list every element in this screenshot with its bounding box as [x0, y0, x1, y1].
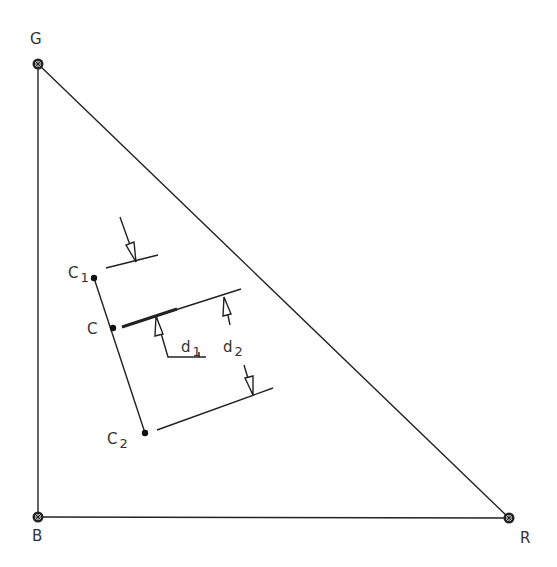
- point-c1-dot: [91, 275, 97, 281]
- arrow-d1-head-icon: [155, 316, 163, 336]
- vertex-b-marker-icon: [33, 512, 44, 523]
- vertex-g-label: G: [30, 32, 42, 47]
- vertex-r-marker-icon: [504, 513, 515, 524]
- line-c1: [106, 255, 158, 268]
- arrow-d2-down-head-icon: [245, 376, 253, 395]
- arrow-d2-up-head-icon: [223, 297, 231, 316]
- point-c2-label: C2: [107, 432, 128, 447]
- vertex-g-marker-icon: [33, 59, 44, 70]
- dimension-d2-label: d2: [223, 340, 243, 355]
- edge-b-r: [38, 517, 509, 518]
- point-c2-dot: [142, 430, 148, 436]
- vertex-b-label: B: [32, 529, 42, 544]
- dimension-d1-label: d1: [181, 340, 201, 355]
- point-c-dot: [110, 325, 116, 331]
- arrow-c1-head-icon: [126, 242, 136, 262]
- line-c2: [157, 388, 273, 430]
- edge-g-r: [38, 64, 509, 518]
- point-c1-label: C1: [68, 266, 89, 281]
- segment-c1-c2: [94, 278, 145, 433]
- vertex-r-label: R: [520, 531, 530, 546]
- point-c-label: C: [87, 322, 97, 337]
- line-c-thick: [122, 309, 177, 327]
